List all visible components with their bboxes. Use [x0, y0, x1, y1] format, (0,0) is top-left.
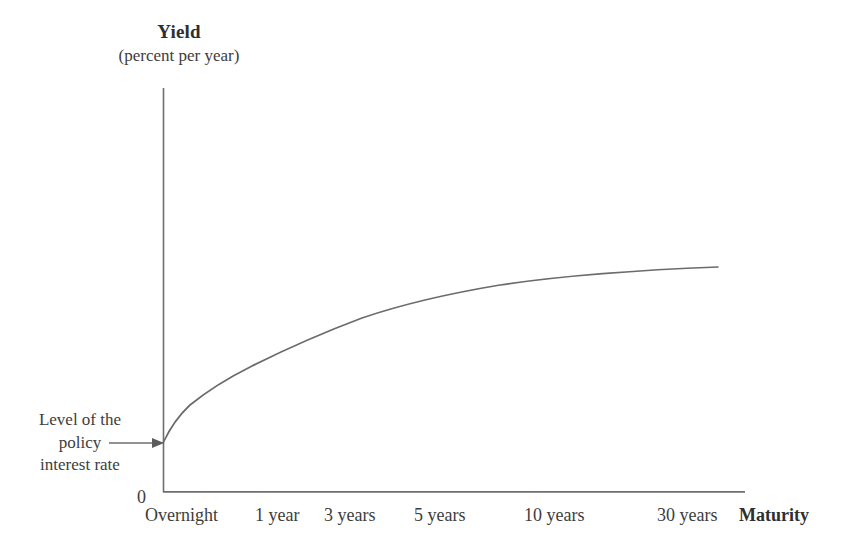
policy-rate-annotation-line-3: interest rate	[20, 454, 140, 477]
x-tick-label-1-year: 1 year	[255, 505, 299, 526]
x-tick-label-30-years: 30 years	[657, 505, 717, 526]
y-axis-title: Yield (percent per year)	[84, 20, 274, 67]
yield-curve-line	[163, 267, 718, 443]
yield-curve-figure: Yield (percent per year) 0 Level of the …	[0, 0, 854, 556]
policy-rate-annotation-line-1: Level of the	[20, 409, 140, 432]
y-axis-title-main: Yield	[84, 20, 274, 44]
policy-rate-annotation-line-2: policy	[20, 432, 140, 455]
x-tick-label-10-years: 10 years	[524, 505, 584, 526]
policy-rate-annotation: Level of the policy interest rate	[20, 409, 140, 477]
x-tick-label-overnight: Overnight	[145, 505, 218, 526]
x-tick-label-3-years: 3 years	[324, 505, 375, 526]
x-tick-label-5-years: 5 years	[414, 505, 465, 526]
x-axis-title: Maturity	[739, 505, 809, 526]
y-axis-title-sub: (percent per year)	[84, 45, 274, 67]
